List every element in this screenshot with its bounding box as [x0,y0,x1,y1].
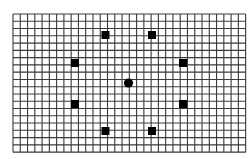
square-target-bottom-right [148,127,156,135]
fixation-dot [124,78,133,87]
square-target-top-left [102,31,110,39]
square-target-top-right [148,31,156,39]
square-target-bottom-left [102,127,110,135]
square-target-lower-right [179,100,187,108]
grid-stimulus-figure [0,0,252,159]
square-target-upper-left [71,59,79,67]
square-target-lower-left [71,100,79,108]
square-target-upper-right [179,59,187,67]
